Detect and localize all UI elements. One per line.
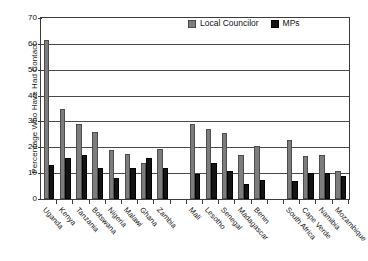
x-label-cell (171, 204, 187, 260)
x-label-cell: Kenya (57, 204, 73, 260)
y-tick-label: 10 (13, 169, 37, 177)
x-axis-category-label: Mali (187, 206, 202, 222)
bar-mps (292, 181, 297, 199)
legend-swatch-councilor (188, 20, 196, 28)
bar-mps (341, 176, 346, 199)
bar-group (106, 18, 122, 199)
bar-mps (308, 173, 313, 199)
bar-mps (244, 184, 249, 200)
bar-group (219, 18, 235, 199)
bar-group (333, 18, 349, 199)
x-label-cell: Benin (252, 204, 268, 260)
bar-mps (65, 158, 70, 199)
y-tick-label: 20 (13, 143, 37, 151)
x-label-cell: Mozambique (333, 204, 349, 260)
x-label-cell: Zambia (154, 204, 170, 260)
bar-mps (227, 171, 232, 199)
x-label-cell: Mali (187, 204, 203, 260)
x-label-cell (268, 204, 284, 260)
y-tick-label: 0 (13, 195, 37, 203)
bar-group (252, 18, 268, 199)
bar-group (90, 18, 106, 199)
x-label-cell: Madagascar (235, 204, 251, 260)
bar-mps (49, 165, 54, 199)
bar-group (187, 18, 203, 199)
bar-group (73, 18, 89, 199)
x-label-cell: Uganda (41, 204, 57, 260)
x-axis-labels: UgandaKenyaTanzaniaBotswanaNigeriaMalawi… (41, 204, 349, 260)
legend-label: Local Councilor (200, 19, 259, 28)
legend-swatch-mps (271, 20, 279, 28)
y-tick-label: 50 (13, 66, 37, 74)
y-tick-label: 40 (13, 92, 37, 100)
bar-group-spacer (268, 18, 284, 199)
bar-group (203, 18, 219, 199)
bar-mps (211, 163, 216, 199)
x-label-cell: Cape Verde (300, 204, 316, 260)
bar-mps (130, 168, 135, 199)
bar-group (122, 18, 138, 199)
bar-mps (260, 180, 265, 199)
bar-mps (98, 168, 103, 199)
x-label-cell: Lesotho (203, 204, 219, 260)
x-label-cell: Namibia (316, 204, 332, 260)
bar-mps (163, 168, 168, 199)
bar-mps (146, 158, 151, 199)
bar-mps (114, 178, 119, 199)
bar-group (300, 18, 316, 199)
bar-group (235, 18, 251, 199)
bar-group (316, 18, 332, 199)
bar-mps (325, 173, 330, 199)
bars-layer (41, 18, 349, 199)
y-tick-label: 30 (13, 117, 37, 125)
chart-legend: Local CouncilorMPs (186, 18, 302, 29)
bar-group (41, 18, 57, 199)
bar-mps (82, 155, 87, 199)
bar-group-spacer (171, 18, 187, 199)
y-tick-label: 60 (13, 40, 37, 48)
bar-group (284, 18, 300, 199)
x-label-cell: Senegal (219, 204, 235, 260)
x-label-cell: Ghana (138, 204, 154, 260)
x-axis-category-label: Mozambique (333, 206, 368, 243)
bar-group (138, 18, 154, 199)
x-label-cell: Botswana (90, 204, 106, 260)
bar-group (57, 18, 73, 199)
x-label-cell: Malawi (122, 204, 138, 260)
legend-label: MPs (283, 19, 300, 28)
bar-mps (195, 174, 200, 199)
x-label-cell: Tanzania (73, 204, 89, 260)
bar-group (154, 18, 170, 199)
y-tick-label: 70 (13, 14, 37, 22)
x-label-cell: South Africa (284, 204, 300, 260)
x-label-cell: Nigeria (106, 204, 122, 260)
